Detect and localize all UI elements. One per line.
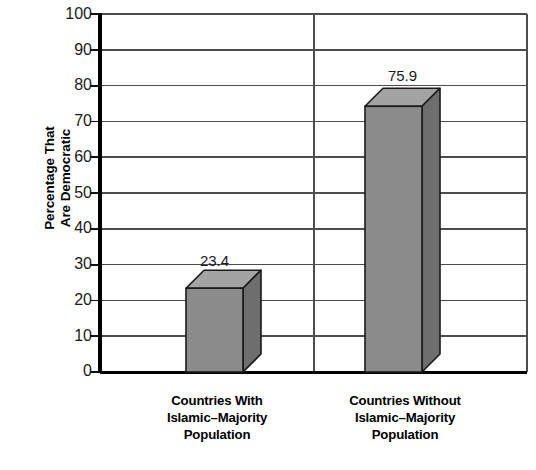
bar-2-value-label: 75.9 xyxy=(366,67,439,84)
bar-2-side-face xyxy=(422,88,440,372)
bar-countries-with-islamic-majority xyxy=(186,270,261,372)
category-2-line-2: Islamic–Majority xyxy=(305,410,505,427)
category-2-line-1: Countries Without xyxy=(305,393,505,410)
category-2-line-3: Population xyxy=(305,427,505,444)
bar-1-side-face xyxy=(243,270,261,372)
category-1-line-1: Countries With xyxy=(122,393,312,410)
x-axis-category-label-1: Countries With Islamic–Majority Populati… xyxy=(122,393,312,444)
bar-2-front-face xyxy=(365,106,422,372)
bar-1-front-face xyxy=(186,288,243,372)
bar-chart: Percentage That Are Democratic 100 90 80… xyxy=(0,0,536,470)
bar-1-value-label: 23.4 xyxy=(178,252,251,269)
x-axis-category-label-2: Countries Without Islamic–Majority Popul… xyxy=(305,393,505,444)
category-1-line-3: Population xyxy=(122,427,312,444)
bar-countries-without-islamic-majority xyxy=(365,88,440,372)
category-1-line-2: Islamic–Majority xyxy=(122,410,312,427)
